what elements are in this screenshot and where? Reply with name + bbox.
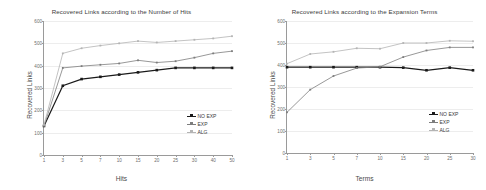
legend-label: ALG (198, 128, 208, 136)
data-point-marker (212, 38, 214, 40)
legend-label: EXP (440, 118, 450, 126)
terms-plot-area: 010020030040050060013571015202530 (286, 21, 473, 154)
y-axis-tick-label: 100 (34, 130, 42, 135)
data-point-marker (175, 40, 177, 42)
x-axis-tick-mark (176, 155, 177, 157)
y-axis-tick-label: 400 (277, 63, 285, 68)
x-axis-tick-mark (287, 153, 288, 155)
x-axis-tick-mark (157, 155, 158, 157)
data-point-marker (156, 42, 158, 44)
y-axis-tick-label: 500 (277, 41, 285, 46)
x-axis-tick-mark (213, 155, 214, 157)
legend-item-alg: ALG (187, 128, 216, 136)
y-axis-tick-label: 300 (277, 85, 285, 90)
data-point-marker (449, 47, 451, 49)
data-point-marker (118, 63, 120, 65)
hits-legend: NO EXPEXPALG (187, 112, 216, 136)
data-point-marker (472, 40, 474, 42)
x-axis-tick-mark (44, 155, 45, 157)
data-point-marker (80, 78, 83, 81)
data-point-marker (286, 63, 288, 65)
data-point-marker (286, 111, 288, 113)
data-point-marker (472, 47, 474, 49)
x-axis-tick-label: 10 (377, 156, 382, 161)
y-axis-tick-label: 500 (34, 41, 42, 46)
x-axis-tick-mark (357, 153, 358, 155)
y-axis-tick-label: 100 (277, 129, 285, 134)
legend-swatch-icon (187, 120, 196, 128)
x-axis-tick-mark (119, 155, 120, 157)
data-point-marker (43, 124, 45, 126)
data-point-marker (212, 67, 215, 70)
legend-label: NO EXP (440, 110, 459, 118)
x-axis-tick-label: 40 (211, 158, 216, 163)
x-axis-tick-label: 7 (355, 156, 358, 161)
data-point-marker (100, 64, 102, 66)
x-axis-tick-label: 10 (117, 158, 122, 163)
y-axis-tick-label: 600 (34, 19, 42, 24)
terms-chart-title: Recovered Links according to the Expansi… (243, 8, 486, 15)
terms-x-axis-label: Terms (243, 175, 486, 182)
legend-item-no-exp: NO EXP (429, 110, 458, 118)
hits-panel: Recovered Links according to the Number … (0, 0, 243, 190)
data-point-marker (449, 40, 451, 42)
data-point-marker (402, 56, 404, 58)
data-point-marker (156, 69, 159, 72)
x-axis-tick-mark (82, 155, 83, 157)
x-axis-tick-mark (450, 153, 451, 155)
x-axis-tick-label: 30 (192, 158, 197, 163)
data-point-marker (62, 52, 64, 54)
hits-x-axis-label: Hits (0, 175, 243, 182)
data-point-marker (425, 69, 428, 72)
x-axis-tick-label: 25 (173, 158, 178, 163)
x-axis-tick-mark (232, 155, 233, 157)
terms-y-axis-label: Recovered Links (269, 71, 276, 119)
data-point-marker (137, 71, 140, 74)
data-point-marker (448, 66, 451, 69)
x-axis-tick-mark (310, 153, 311, 155)
data-point-marker (193, 67, 196, 70)
data-point-marker (137, 59, 139, 61)
x-axis-tick-mark (334, 153, 335, 155)
data-point-marker (332, 66, 335, 69)
y-axis-tick-label: 300 (34, 86, 42, 91)
data-point-marker (333, 51, 335, 53)
data-point-marker (356, 67, 358, 69)
x-axis-tick-mark (100, 155, 101, 157)
data-point-marker (426, 50, 428, 52)
legend-swatch-icon (187, 128, 196, 136)
x-axis-tick-mark (473, 153, 474, 155)
x-axis-tick-mark (194, 155, 195, 157)
data-point-marker (231, 67, 234, 70)
data-point-marker (81, 47, 83, 49)
data-point-marker (379, 66, 381, 68)
data-point-marker (194, 39, 196, 41)
y-axis-tick-label: 400 (34, 63, 42, 68)
data-point-marker (118, 42, 120, 44)
data-point-marker (118, 73, 121, 76)
x-axis-tick-label: 15 (401, 156, 406, 161)
x-axis-tick-label: 7 (99, 158, 102, 163)
y-axis-tick-label: 200 (277, 107, 285, 112)
data-point-marker (472, 69, 475, 72)
data-point-marker (402, 66, 405, 69)
hits-y-axis-label: Recovered Links (26, 71, 33, 119)
data-point-marker (62, 84, 65, 87)
x-axis-tick-label: 25 (447, 156, 452, 161)
data-point-marker (100, 45, 102, 47)
data-point-marker (212, 52, 214, 54)
legend-label: ALG (440, 126, 450, 134)
x-axis-tick-mark (63, 155, 64, 157)
legend-item-exp: EXP (187, 120, 216, 128)
data-point-marker (309, 89, 311, 91)
x-axis-tick-label: 3 (62, 158, 65, 163)
figure-two-line-charts: Recovered Links according to the Number … (0, 0, 486, 190)
data-point-marker (156, 62, 158, 64)
x-axis-tick-mark (138, 155, 139, 157)
x-axis-tick-mark (427, 153, 428, 155)
y-axis-tick-label: 200 (34, 108, 42, 113)
x-axis-tick-label: 20 (424, 156, 429, 161)
data-point-marker (175, 60, 177, 62)
legend-swatch-icon (429, 118, 438, 126)
data-point-marker (356, 47, 358, 49)
